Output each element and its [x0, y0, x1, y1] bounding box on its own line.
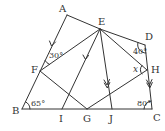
- point-label-C: C: [153, 112, 161, 123]
- angle-label-40: 40°: [133, 47, 147, 56]
- angle-arc-F: [45, 61, 50, 65]
- segment-AE: [67, 15, 100, 29]
- angle-arc-B: [26, 102, 31, 109]
- point-label-I: I: [59, 113, 63, 124]
- point-label-F: F: [31, 64, 38, 75]
- angle-label-80: 80°: [137, 99, 151, 108]
- point-label-J: J: [108, 113, 113, 124]
- segment-AB: [22, 15, 67, 109]
- point-label-D: D: [145, 31, 153, 42]
- point-label-E: E: [98, 16, 105, 27]
- segment-FG: [40, 71, 87, 109]
- point-label-G: G: [83, 113, 91, 124]
- point-label-H: H: [151, 64, 160, 75]
- segment-EI: [62, 29, 100, 109]
- angle-arc-H: [140, 66, 142, 75]
- point-label-B: B: [12, 105, 19, 116]
- angle-label-30: 30°: [49, 51, 63, 60]
- angle-label-65: 65°: [31, 99, 45, 108]
- geometry-diagram: A E D H C B F I G J 30° 40° x 65° 80°: [0, 0, 165, 131]
- point-label-A: A: [58, 3, 67, 14]
- angle-label-x: x: [133, 64, 138, 74]
